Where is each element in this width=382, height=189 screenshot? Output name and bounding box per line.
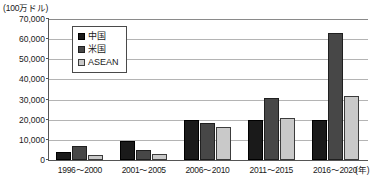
- y-axis-tick-label: 20,000: [1, 116, 45, 124]
- y-axis-tick-label: 40,000: [1, 75, 45, 83]
- bar: [264, 98, 279, 160]
- x-axis-tick-labels: 1996～20002001～20052006～20102011～20152016…: [48, 163, 367, 175]
- y-axis-tick-label: 70,000: [1, 15, 45, 23]
- bar: [136, 150, 151, 160]
- bar: [216, 127, 231, 160]
- legend-item: 米国: [78, 43, 119, 56]
- x-axis-unit-label: (年): [355, 163, 370, 175]
- filled-square-icon: [78, 46, 85, 53]
- bar: [120, 141, 135, 160]
- y-axis-tick-label: 0: [1, 156, 45, 164]
- bar-group: [303, 19, 367, 160]
- bar: [152, 154, 167, 160]
- y-axis-tick-label: 50,000: [1, 55, 45, 63]
- bar-group: [239, 19, 303, 160]
- x-axis-tick-label: 1996～2000: [48, 163, 112, 175]
- bar: [184, 120, 199, 160]
- legend-item-label: 中国: [88, 32, 106, 41]
- bar: [56, 152, 71, 160]
- legend-item-label: ASEAN: [88, 58, 119, 67]
- y-axis-tick-label: 30,000: [1, 96, 45, 104]
- legend-item: ASEAN: [78, 56, 119, 69]
- bar: [312, 120, 327, 160]
- bar: [344, 96, 359, 160]
- y-axis-tick-label: 10,000: [1, 136, 45, 144]
- x-axis-tick-label: 2011～2015: [239, 163, 303, 175]
- x-axis-tick-label: 2006～2010: [176, 163, 240, 175]
- y-axis-tick-label: 60,000: [1, 35, 45, 43]
- chart-legend: 中国米国ASEAN: [72, 26, 127, 73]
- filled-square-icon: [78, 33, 85, 40]
- bar: [72, 146, 87, 160]
- bar: [88, 155, 103, 160]
- x-axis-tick-label: 2001～2005: [112, 163, 176, 175]
- bar: [200, 123, 215, 160]
- bar: [328, 33, 343, 160]
- legend-item: 中国: [78, 30, 119, 43]
- bar: [248, 120, 263, 160]
- legend-item-label: 米国: [88, 45, 106, 54]
- outlined-square-icon: [78, 59, 85, 66]
- y-axis-unit-label: (100万ドル): [3, 1, 48, 13]
- bar-group: [176, 19, 240, 160]
- bar: [280, 118, 295, 160]
- bar-chart: (100万ドル) 70,00060,00050,00040,00030,0002…: [0, 0, 382, 189]
